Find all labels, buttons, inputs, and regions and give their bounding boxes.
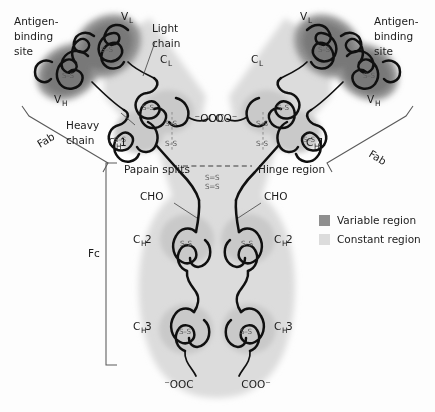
hinge-ss-lower: S=S — [205, 182, 220, 191]
ch1-left-base: C — [108, 136, 115, 148]
fab-bracket-right — [327, 106, 413, 172]
ch1-left-num: 1 — [120, 136, 127, 148]
fab-label-right: Fab — [367, 147, 389, 167]
hinge-ss-upper: S=S — [205, 173, 220, 182]
antigen-site-right-line1: Antigen- — [374, 15, 419, 27]
legend-swatch-constant — [319, 234, 330, 245]
heavy-coo-right: COO⁻ — [241, 378, 270, 390]
vh-left-base: V — [54, 93, 62, 105]
antigen-binding-site-left: Antigen- binding site — [14, 15, 59, 57]
ss-label: S–S — [318, 45, 331, 54]
ss-label: S–S — [179, 327, 192, 336]
cl-left-base: C — [160, 53, 167, 65]
antibody-svg: S–S S–S S–S S–S S–S S–S S–S S–S S–S S–S … — [0, 0, 435, 412]
ss-label: S–S — [62, 71, 75, 80]
vl-left-base: V — [121, 10, 129, 22]
vh-left-sub: H — [62, 99, 68, 108]
ss-label: S–S — [165, 139, 178, 148]
vl-right-base: V — [300, 10, 308, 22]
ch3-right-base: C — [274, 320, 281, 332]
light-chain-line1: Light — [152, 22, 178, 34]
legend-label-constant: Constant region — [337, 233, 421, 245]
antigen-site-left-line3: site — [14, 45, 33, 57]
ss-label: S–S — [277, 103, 290, 112]
label-heavy-chain-left: Heavy chain — [66, 119, 99, 146]
ss-label: S–S — [256, 119, 269, 128]
ss-label: S–S — [165, 119, 178, 128]
antigen-binding-site-right: Antigen- binding site — [374, 15, 419, 57]
cl-right-base: C — [251, 53, 258, 65]
ss-label: S–S — [363, 71, 376, 80]
cho-label-right: CHO — [264, 190, 288, 202]
antigen-site-right-line3: site — [374, 45, 393, 57]
ch3-left-base: C — [133, 320, 140, 332]
legend-swatch-variable — [319, 215, 330, 226]
legend: Variable region Constant region — [319, 214, 421, 245]
vh-right-sub: H — [375, 99, 381, 108]
ss-label: S–S — [142, 103, 155, 112]
heavy-chain-line2: chain — [66, 134, 94, 146]
antigen-site-left-line2: binding — [14, 30, 53, 42]
ch1-right-num: 1 — [318, 136, 325, 148]
vh-right-base: V — [367, 93, 375, 105]
antibody-diagram: S–S S–S S–S S–S S–S S–S S–S S–S S–S S–S … — [0, 0, 435, 412]
ch3-left-num: 3 — [145, 320, 152, 332]
ss-label: S–S — [241, 239, 254, 248]
light-chain-line2: chain — [152, 37, 180, 49]
cho-label-left: CHO — [140, 190, 164, 202]
heavy-coo-left: ⁻OOC — [164, 378, 193, 390]
constant-region-shape — [104, 18, 331, 398]
fab-label-left: Fab — [35, 130, 57, 150]
antigen-site-right-line2: binding — [374, 30, 413, 42]
hinge-region-label: Hinge region — [258, 163, 325, 175]
ch2-right-base: C — [274, 233, 281, 245]
ch2-left-num: 2 — [145, 233, 152, 245]
ss-label: S–S — [240, 327, 253, 336]
antigen-site-left-line1: Antigen- — [14, 15, 59, 27]
fc-bracket — [106, 163, 117, 365]
ss-label: S–S — [256, 139, 269, 148]
ch3-right-num: 3 — [286, 320, 293, 332]
fc-label: Fc — [88, 247, 100, 259]
light-coo-right: ⁻OOC — [195, 112, 224, 124]
ch1-right-base: C — [306, 136, 313, 148]
ss-label: S–S — [101, 45, 114, 54]
ss-label: S–S — [180, 239, 193, 248]
papain-splits-label: Papain splits — [124, 163, 190, 175]
ch2-right-num: 2 — [286, 233, 293, 245]
ch2-left-base: C — [133, 233, 140, 245]
legend-label-variable: Variable region — [337, 214, 416, 226]
heavy-chain-line1: Heavy — [66, 119, 99, 131]
